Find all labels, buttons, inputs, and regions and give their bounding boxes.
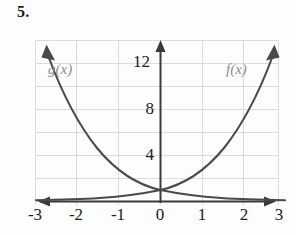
curve-label-f: f(x) <box>226 61 247 78</box>
curve-g <box>42 45 286 201</box>
x-tick-label: 1 <box>189 205 215 225</box>
x-tick-label: -1 <box>105 205 131 225</box>
y-tick-label: 12 <box>126 52 150 72</box>
curve-label-g: g(x) <box>48 61 72 78</box>
y-tick-label: 8 <box>130 99 154 119</box>
figure-container: 5. <box>0 0 296 235</box>
x-tick-label: 3 <box>266 205 292 225</box>
y-tick-label: 4 <box>130 145 154 165</box>
x-tick-label: -3 <box>22 205 48 225</box>
x-tick-label: -2 <box>63 205 89 225</box>
x-tick-label: 0 <box>147 205 173 225</box>
x-tick-label: 2 <box>231 205 257 225</box>
